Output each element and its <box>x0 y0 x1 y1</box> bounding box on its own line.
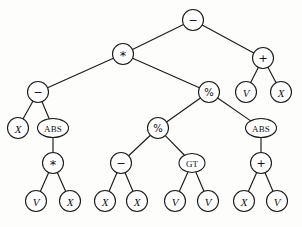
node-layer: −*+−%VXXABS%ABS*−GT+VXXXVVXV <box>8 10 292 212</box>
tree-edge <box>125 173 133 192</box>
node-label: X <box>66 196 75 208</box>
tree-edge <box>179 172 188 191</box>
tree-node-n13: GT <box>179 154 205 173</box>
tree-edge <box>57 173 65 192</box>
tree-edge <box>129 135 151 156</box>
node-label: − <box>33 86 42 99</box>
node-label: X <box>240 196 249 208</box>
tree-node-n20: V <box>198 191 219 212</box>
tree-node-n0: − <box>183 10 204 31</box>
tree-node-n22: V <box>267 191 288 212</box>
expression-tree-figure: −*+−%VXXABS%ABS*−GT+VXXXVVXV <box>0 0 302 227</box>
node-label: GT <box>186 159 199 169</box>
tree-node-n19: V <box>165 191 186 212</box>
tree-edge <box>23 101 33 119</box>
tree-edge <box>196 172 204 191</box>
tree-node-n5: V <box>236 82 257 103</box>
tree-node-n17: X <box>95 191 116 212</box>
tree-edge <box>265 173 273 192</box>
tree-edge <box>48 58 114 87</box>
tree-node-n7: X <box>8 118 29 139</box>
tree-edge <box>268 67 276 82</box>
node-label: X <box>133 196 142 208</box>
tree-node-n12: − <box>111 153 132 174</box>
tree-edge <box>167 98 201 122</box>
tree-node-n18: X <box>127 191 148 212</box>
tree-node-n8: ABS <box>38 119 69 138</box>
tree-node-n15: V <box>26 191 47 212</box>
tree-node-n10: ABS <box>246 119 277 138</box>
tree-edge <box>165 136 184 156</box>
node-label: − <box>116 157 125 170</box>
tree-node-n6: X <box>271 82 292 103</box>
node-label: X <box>14 123 23 135</box>
node-label: X <box>277 87 286 99</box>
tree-edge <box>251 67 259 82</box>
node-label: + <box>258 52 267 65</box>
tree-node-n2: + <box>253 48 274 69</box>
node-label: ABS <box>252 124 270 134</box>
node-label: % <box>153 123 163 134</box>
tree-edge <box>202 25 254 53</box>
tree-node-n3: − <box>28 82 49 103</box>
expression-tree-canvas: −*+−%VXXABS%ABS*−GT+VXXXVVXV <box>0 0 302 227</box>
tree-edge <box>40 173 48 192</box>
tree-node-n9: % <box>148 118 169 139</box>
node-label: ABS <box>44 124 62 134</box>
tree-node-n21: X <box>234 191 255 212</box>
tree-node-n1: * <box>113 44 134 65</box>
node-label: * <box>120 48 127 63</box>
tree-node-n14: + <box>251 153 272 174</box>
tree-edge <box>42 102 49 119</box>
tree-node-n11: * <box>43 153 64 174</box>
tree-edge <box>133 58 200 88</box>
tree-edge <box>132 25 183 50</box>
tree-edge <box>109 173 117 192</box>
tree-edge <box>248 173 256 192</box>
node-label: + <box>256 157 265 170</box>
node-label: − <box>188 14 197 27</box>
node-label: % <box>204 87 214 98</box>
node-label: X <box>101 196 110 208</box>
tree-node-n4: % <box>199 82 220 103</box>
node-label: * <box>50 157 57 172</box>
tree-node-n16: X <box>60 191 81 212</box>
